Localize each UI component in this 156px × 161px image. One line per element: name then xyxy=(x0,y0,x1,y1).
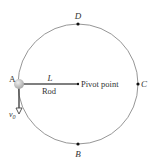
pivot-point-dot xyxy=(77,83,79,85)
velocity-label: v0 xyxy=(9,110,16,120)
point-b-dot xyxy=(76,142,79,145)
rod-label: Rod xyxy=(42,86,57,96)
point-d-dot xyxy=(76,22,79,25)
label-d: D xyxy=(74,11,82,21)
label-b: B xyxy=(75,149,81,159)
label-c: C xyxy=(141,79,148,89)
label-a: A xyxy=(9,74,16,84)
pivot-point-label: Pivot point xyxy=(81,79,119,89)
velocity-subscript: 0 xyxy=(13,114,16,120)
rod-length-label: L xyxy=(46,73,52,83)
vertical-circle-diagram: D B C A L Rod Pivot point v0 xyxy=(0,0,156,161)
velocity-arrowhead xyxy=(16,108,22,114)
ball xyxy=(14,79,24,89)
point-c-dot xyxy=(136,82,139,85)
